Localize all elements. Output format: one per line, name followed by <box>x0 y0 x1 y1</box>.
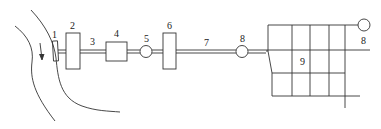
pump-station-box <box>66 33 80 69</box>
label-5: 5 <box>144 33 149 44</box>
pipe-7 <box>176 50 236 53</box>
clear-water-box <box>163 33 176 69</box>
label-6: 6 <box>167 20 172 31</box>
label-8a: 8 <box>240 33 245 44</box>
treatment-box <box>106 42 127 61</box>
pipe-4-5 <box>127 50 140 53</box>
river-left-bank <box>15 26 55 121</box>
label-4: 4 <box>114 28 119 39</box>
label-3: 3 <box>90 36 95 47</box>
end-tower-circle <box>358 19 370 31</box>
pipe-8-network <box>248 50 266 53</box>
diagram-canvas: 1 2 3 4 5 6 7 8 9 8 <box>0 0 381 129</box>
pipe-5-6 <box>152 50 163 53</box>
intake-box <box>52 41 58 61</box>
label-8b: 8 <box>361 35 366 46</box>
distribution-network <box>266 25 370 108</box>
pipe-1-2 <box>58 50 66 53</box>
label-2: 2 <box>70 20 75 31</box>
tower-circle <box>236 46 248 58</box>
pipe-3 <box>80 50 106 53</box>
label-7: 7 <box>204 37 209 48</box>
pump-circle <box>140 46 152 58</box>
label-1: 1 <box>52 29 57 40</box>
flow-arrow-icon <box>40 43 45 60</box>
label-9: 9 <box>300 56 305 67</box>
